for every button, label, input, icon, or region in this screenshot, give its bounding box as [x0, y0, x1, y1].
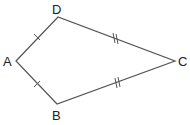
vertex-label-d: D: [52, 2, 61, 17]
kite-svg: A B C D: [0, 0, 190, 125]
kite-diagram: A B C D: [0, 0, 190, 125]
vertex-label-b: B: [52, 108, 61, 123]
kite-shape: [16, 17, 175, 104]
tick-mark-ab: [34, 81, 40, 87]
vertex-label-c: C: [178, 54, 187, 69]
vertex-label-a: A: [3, 54, 12, 69]
